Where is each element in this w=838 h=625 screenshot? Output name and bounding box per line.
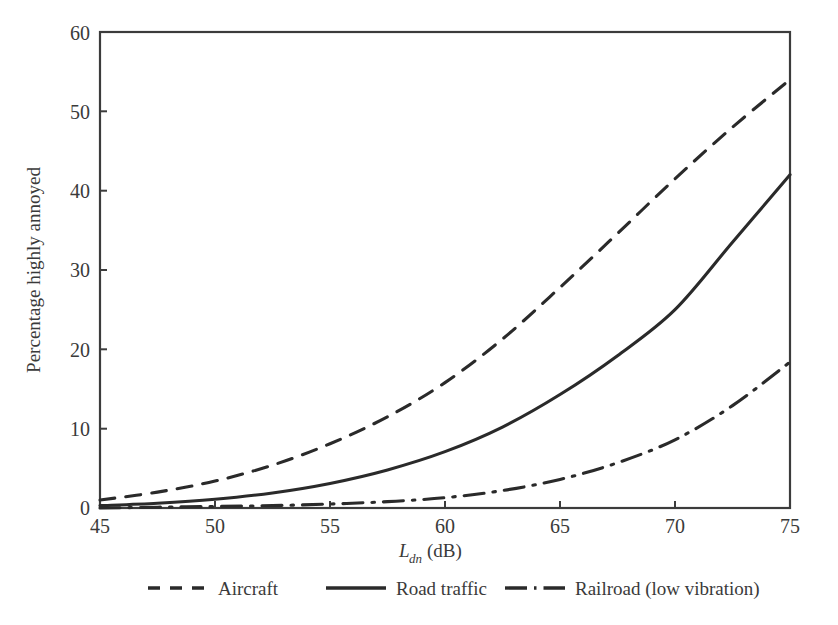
y-axis-tick-labels: 0 10 20 30 40 50 60 — [70, 22, 90, 520]
chart-legend: Aircraft Road traffic Railroad (low vibr… — [148, 578, 760, 600]
x-tick-label: 60 — [435, 515, 455, 537]
x-axis-title-unit: (dB) — [427, 540, 462, 562]
legend-label-road-traffic: Road traffic — [396, 578, 487, 599]
y-tick-label: 10 — [70, 418, 90, 440]
series-line-road-traffic — [100, 175, 790, 506]
x-tick-label: 45 — [90, 515, 110, 537]
legend-label-aircraft: Aircraft — [218, 578, 279, 599]
y-tick-label: 50 — [70, 101, 90, 123]
series-group — [100, 80, 790, 508]
x-axis-title-subscript: dn — [409, 551, 422, 566]
y-tick-label: 60 — [70, 22, 90, 44]
legend-label-railroad: Railroad (low vibration) — [575, 578, 760, 600]
x-tick-label: 50 — [205, 515, 225, 537]
x-axis-tick-labels: 45 50 55 60 65 70 75 — [90, 515, 800, 537]
x-tick-label: 75 — [780, 515, 800, 537]
chart-figure: 0 10 20 30 40 50 60 45 50 55 60 65 70 75 — [0, 0, 838, 625]
x-tick-label: 55 — [320, 515, 340, 537]
y-axis-title: Percentage highly annoyed — [23, 167, 44, 373]
y-tick-label: 40 — [70, 180, 90, 202]
x-axis-title: L dn (dB) — [398, 540, 462, 566]
x-axis-title-base: L — [398, 540, 410, 561]
plot-frame — [100, 32, 790, 508]
y-tick-label: 0 — [80, 497, 90, 519]
x-tick-label: 65 — [550, 515, 570, 537]
y-tick-label: 30 — [70, 259, 90, 281]
x-tick-label: 70 — [665, 515, 685, 537]
series-line-aircraft — [100, 80, 790, 500]
annoyance-vs-ldn-chart: 0 10 20 30 40 50 60 45 50 55 60 65 70 75 — [0, 0, 838, 625]
y-tick-label: 20 — [70, 339, 90, 361]
